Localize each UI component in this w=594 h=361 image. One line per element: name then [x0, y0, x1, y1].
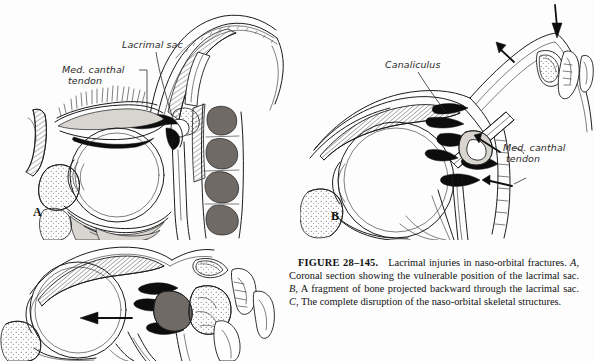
label-canaliculus: Canaliculus [385, 59, 441, 70]
panel-a-letter: A [33, 205, 42, 219]
panel-a-illustration: Lacrimal sac Med. canthal tendon A [0, 0, 300, 240]
figure-caption: FIGURE 28–145. Lacrimal injuries in naso… [289, 256, 579, 308]
figure-panel-b: Canaliculus Med. canthal tendon B [300, 0, 594, 240]
caption-part-b: , A fragment of bone projected backward … [295, 283, 579, 294]
figure-title: Lacrimal injuries in naso-orbital fractu… [388, 257, 567, 268]
label-med-canthal-tendon-line1: Med. canthal [62, 64, 125, 75]
figure-panel-c: C [0, 236, 280, 361]
panel-b-letter: B [331, 209, 339, 223]
label-med-canthal-tendon-b-line1: Med. canthal [503, 142, 566, 153]
panel-c-illustration: C [0, 236, 280, 361]
label-med-canthal-tendon-line2: tendon [68, 75, 102, 86]
label-med-canthal-tendon-b-line2: tendon [506, 153, 540, 164]
caption-panel-c-letter: C [289, 296, 296, 307]
figure-panel-a: Lacrimal sac Med. canthal tendon A [0, 0, 300, 240]
caption-part-c: , The complete disruption of the naso-or… [296, 296, 561, 307]
figure-page: Lacrimal sac Med. canthal tendon A [0, 0, 594, 361]
panel-b-illustration: Canaliculus Med. canthal tendon B [300, 0, 594, 240]
label-lacrimal-sac: Lacrimal sac [122, 39, 183, 50]
figure-number: FIGURE 28–145. [298, 257, 378, 268]
secondary-arrow-b [496, 42, 514, 62]
